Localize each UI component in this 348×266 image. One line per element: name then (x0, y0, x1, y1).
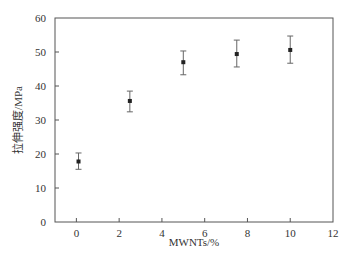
x-tick-label: 8 (245, 227, 251, 239)
y-tick-label: 50 (35, 46, 47, 58)
y-tick-label: 0 (41, 216, 47, 228)
y-tick-label: 10 (35, 182, 47, 194)
data-point-marker (181, 60, 185, 64)
x-tick-label: 2 (116, 227, 122, 239)
y-tick-label: 30 (35, 114, 47, 126)
chart: 024681012 0102030405060 MWNTs/% 拉伸强度/MPa (0, 0, 348, 266)
data-point-marker (128, 99, 132, 103)
x-tick-label: 4 (159, 227, 165, 239)
x-tick-label: 0 (74, 227, 80, 239)
y-tick-label: 40 (35, 80, 47, 92)
data-point-marker (288, 48, 292, 52)
data-points (76, 36, 294, 169)
y-tick-label: 20 (35, 148, 47, 160)
data-point-marker (77, 159, 81, 163)
x-tick-label: 12 (328, 227, 339, 239)
x-axis-title: MWNTs/% (169, 236, 220, 248)
y-axis-title: 拉伸强度/MPa (11, 86, 24, 154)
y-tick-label: 60 (35, 12, 47, 24)
data-point-marker (235, 52, 239, 56)
x-tick-label: 10 (285, 227, 297, 239)
